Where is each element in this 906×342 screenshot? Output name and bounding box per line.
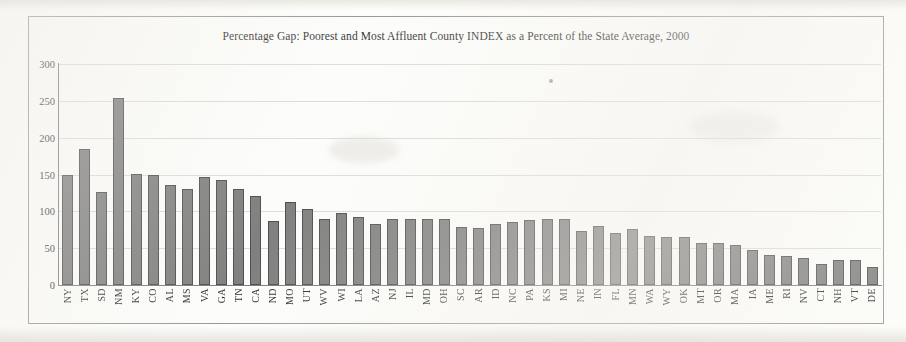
x-tick-label-ID: ID <box>491 288 501 299</box>
bar-RI <box>781 256 792 285</box>
bar-ID <box>490 224 501 285</box>
x-tick-label-ME: ME <box>765 288 775 304</box>
x-label-slot-MN: MN <box>624 288 641 328</box>
y-tick-label-200: 200 <box>29 132 55 143</box>
x-tick-label-ND: ND <box>268 288 278 303</box>
x-tick-label-CT: CT <box>816 288 826 302</box>
bar-slot-VA <box>196 64 213 285</box>
x-label-slot-NC: NC <box>504 288 521 328</box>
bar-IL <box>405 219 416 285</box>
y-tick-label-300: 300 <box>29 59 55 70</box>
x-tick-label-IN: IN <box>593 288 603 299</box>
x-label-slot-GA: GA <box>213 288 230 328</box>
x-axis-line <box>58 285 882 286</box>
bar-slot-NH <box>830 64 847 285</box>
x-tick-label-NY: NY <box>63 288 73 303</box>
x-label-slot-AL: AL <box>162 288 179 328</box>
bar-NY <box>62 175 73 285</box>
x-tick-label-PA: PA <box>525 288 535 301</box>
bar-WA <box>644 236 655 285</box>
bar-slot-MN <box>624 64 641 285</box>
bar-slot-GA <box>213 64 230 285</box>
x-label-slot-MD: MD <box>419 288 436 328</box>
y-tick-label-0: 0 <box>29 280 55 291</box>
x-label-slot-ND: ND <box>265 288 282 328</box>
x-tick-label-AR: AR <box>474 288 484 303</box>
x-tick-label-NJ: NJ <box>388 288 398 300</box>
x-tick-label-SD: SD <box>97 288 107 302</box>
x-tick-label-NE: NE <box>576 288 586 302</box>
x-tick-label-AL: AL <box>165 288 175 302</box>
x-label-slot-TX: TX <box>76 288 93 328</box>
y-tick-label-100: 100 <box>29 206 55 217</box>
bar-slot-PA <box>521 64 538 285</box>
bar-slot-AR <box>470 64 487 285</box>
x-tick-label-WY: WY <box>662 288 672 305</box>
bar-UT <box>302 209 313 285</box>
bar-slot-FL <box>607 64 624 285</box>
x-tick-label-VA: VA <box>200 288 210 302</box>
x-label-slot-KS: KS <box>539 288 556 328</box>
bar-slot-MI <box>556 64 573 285</box>
bar-slot-TX <box>76 64 93 285</box>
bar-NJ <box>387 219 398 285</box>
bar-MD <box>422 219 433 285</box>
bar-OH <box>439 219 450 285</box>
x-label-slot-IA: IA <box>744 288 761 328</box>
bar-slot-ID <box>487 64 504 285</box>
bar-TN <box>233 189 244 285</box>
x-tick-label-SC: SC <box>456 288 466 301</box>
bar-TX <box>79 149 90 285</box>
bar-slot-OH <box>436 64 453 285</box>
x-label-slot-VA: VA <box>196 288 213 328</box>
x-tick-label-WA: WA <box>645 288 655 304</box>
bar-MA <box>730 245 741 285</box>
x-label-slot-SD: SD <box>93 288 110 328</box>
x-label-slot-MO: MO <box>282 288 299 328</box>
x-label-slot-WV: WV <box>316 288 333 328</box>
bar-slot-OK <box>676 64 693 285</box>
x-label-slot-DE: DE <box>864 288 881 328</box>
bar-GA <box>216 180 227 285</box>
bar-OR <box>713 243 724 285</box>
x-tick-label-IA: IA <box>748 288 758 299</box>
x-tick-label-RI: RI <box>782 288 792 299</box>
bar-SC <box>456 227 467 285</box>
x-label-slot-NJ: NJ <box>384 288 401 328</box>
chart-title: Percentage Gap: Poorest and Most Affluen… <box>29 30 883 42</box>
bar-slot-MS <box>179 64 196 285</box>
x-label-slot-LA: LA <box>350 288 367 328</box>
bar-slot-IN <box>590 64 607 285</box>
bar-slot-WI <box>333 64 350 285</box>
y-tick-label-150: 150 <box>29 169 55 180</box>
bar-slot-SD <box>93 64 110 285</box>
scan-edge-shadow-top <box>0 0 906 10</box>
x-label-slot-MA: MA <box>727 288 744 328</box>
x-tick-label-UT: UT <box>302 288 312 302</box>
x-label-slot-UT: UT <box>299 288 316 328</box>
x-tick-label-KY: KY <box>131 288 141 303</box>
bar-VA <box>199 177 210 285</box>
x-label-slot-OH: OH <box>436 288 453 328</box>
x-label-slot-NE: NE <box>573 288 590 328</box>
x-label-slot-CO: CO <box>145 288 162 328</box>
x-label-slot-CA: CA <box>247 288 264 328</box>
bar-series <box>59 64 881 285</box>
bar-DE <box>867 267 878 285</box>
bar-slot-NC <box>504 64 521 285</box>
x-tick-label-MT: MT <box>696 288 706 304</box>
x-label-slot-KY: KY <box>128 288 145 328</box>
x-label-slot-FL: FL <box>607 288 624 328</box>
x-label-slot-WY: WY <box>658 288 675 328</box>
x-tick-label-WI: WI <box>337 288 347 302</box>
x-tick-label-OK: OK <box>679 288 689 303</box>
bar-slot-WY <box>658 64 675 285</box>
x-tick-label-NC: NC <box>508 288 518 303</box>
bar-slot-SC <box>453 64 470 285</box>
y-axis-tick-labels: 300250200150100500 <box>29 64 55 285</box>
bar-MS <box>182 189 193 286</box>
x-label-slot-CT: CT <box>813 288 830 328</box>
x-tick-label-MA: MA <box>730 288 740 305</box>
bar-VT <box>850 260 861 285</box>
bar-slot-OR <box>710 64 727 285</box>
